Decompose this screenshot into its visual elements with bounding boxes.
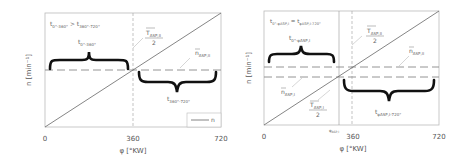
right-xaxis-label: φ [°KW] xyxy=(339,145,366,153)
left-T-half-label: TASP,II xyxy=(145,29,161,38)
right-n-line xyxy=(264,11,439,125)
right-n-II-leader xyxy=(399,56,409,66)
left-n-mean-label: nASP,II xyxy=(195,49,210,58)
left-brace-bottom xyxy=(139,72,216,92)
left-brace-bottom-label: t360°-720° xyxy=(167,95,190,104)
right-n-I-leader xyxy=(292,78,302,87)
right-xtick-360: 360 xyxy=(346,133,359,141)
right-T-II-label: TASP,II xyxy=(366,27,382,36)
left-xtick-0: 0 xyxy=(43,135,47,143)
right-T-I-leader xyxy=(318,90,330,100)
right-T-I-label: TASP,I xyxy=(309,101,324,110)
right-n-I-label: nASP,I xyxy=(281,88,295,97)
left-T-half-leader xyxy=(133,38,143,48)
left-brace-top xyxy=(50,52,128,69)
left-T-half-denominator: 2 xyxy=(152,39,156,46)
right-brace-bottom-label: tφASP,I-720° xyxy=(375,108,401,117)
left-xaxis-label: φ [°KW] xyxy=(119,147,146,155)
right-chart: t0°-φASP,I = tφASP,I-720° t0°-φASP,I tφA… xyxy=(245,11,446,153)
left-n-mean-leader xyxy=(180,58,190,68)
right-n-II-label: nASP,II xyxy=(409,47,424,56)
right-xtick-0: 0 xyxy=(262,133,266,141)
right-xtick-720: 720 xyxy=(432,133,445,141)
right-yaxis-label: n [min⁻¹] xyxy=(245,52,253,84)
left-yaxis-label: n [min⁻¹] xyxy=(25,54,33,86)
diagram-canvas: t0°-360° > t360°-720° t0°-360° t360°-720… xyxy=(0,0,470,168)
right-T-II-leader xyxy=(352,36,362,45)
left-xtick-720: 720 xyxy=(214,135,227,143)
right-brace-top xyxy=(269,46,334,62)
left-chart: t0°-360° > t360°-720° t0°-360° t360°-720… xyxy=(25,13,228,155)
left-condition-text: t0°-360° > t360°-720° xyxy=(50,20,100,29)
right-brace-bottom xyxy=(344,80,434,101)
right-condition-text: t0°-φASP,I = tφASP,I-720° xyxy=(270,18,321,26)
left-brace-top-label: t0°-360° xyxy=(78,38,96,47)
left-legend-label: n xyxy=(211,116,215,123)
right-brace-top-label: t0°-φASP,I xyxy=(289,34,310,43)
right-T-I-denominator: 2 xyxy=(316,111,320,118)
left-xtick-360: 360 xyxy=(126,135,139,143)
right-xtick-phi-asp1: φASP,I xyxy=(329,128,339,134)
right-T-II-denominator: 2 xyxy=(373,37,377,44)
